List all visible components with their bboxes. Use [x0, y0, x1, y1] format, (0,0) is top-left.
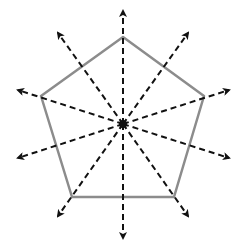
center-dot-icon [119, 120, 127, 128]
arrow-left-upper-icon [18, 90, 123, 124]
arrow-lower-left-icon [58, 124, 123, 216]
arrow-lower-right-icon [123, 124, 188, 216]
arrow-right-upper-icon [123, 90, 229, 124]
center-point [119, 120, 127, 128]
arrow-right-lower-icon [123, 124, 229, 158]
pentagon-symmetry-diagram [0, 0, 242, 247]
arrow-left-lower-icon [18, 124, 123, 158]
arrow-upper-left-icon [58, 33, 123, 124]
